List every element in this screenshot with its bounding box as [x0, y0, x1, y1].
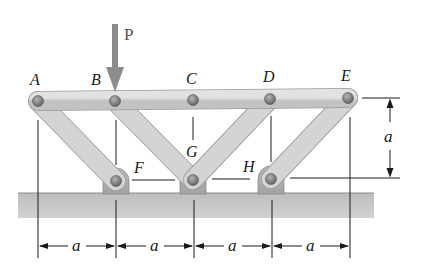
- pin-D: [265, 94, 276, 105]
- dimension-label-4: a: [306, 236, 315, 255]
- vertical-dimension-label: a: [384, 127, 393, 146]
- pin-C: [188, 95, 199, 106]
- joint-label-C: C: [186, 70, 197, 87]
- ground: [18, 193, 374, 218]
- joint-label-G: G: [186, 143, 198, 160]
- pin-F: [111, 176, 122, 187]
- joint-label-B: B: [91, 71, 101, 88]
- pin-A: [33, 96, 44, 107]
- joint-label-E: E: [340, 67, 351, 84]
- dimension-label-3: a: [228, 236, 237, 255]
- pin-E: [343, 93, 354, 104]
- pin-H: [266, 174, 277, 185]
- joint-label-A: A: [29, 71, 40, 88]
- pin-G: [188, 175, 199, 186]
- load-arrow-icon: [106, 24, 124, 92]
- truss-figure: P A B C D E F G H a a a a a: [0, 0, 421, 268]
- dimension-label-1: a: [72, 236, 81, 255]
- dimension-label-2: a: [150, 236, 159, 255]
- joint-label-F: F: [133, 159, 144, 176]
- load-label: P: [124, 25, 133, 44]
- joint-label-D: D: [262, 68, 275, 85]
- reference-lines: [38, 98, 400, 258]
- pin-B: [110, 96, 121, 107]
- joint-label-H: H: [242, 158, 256, 175]
